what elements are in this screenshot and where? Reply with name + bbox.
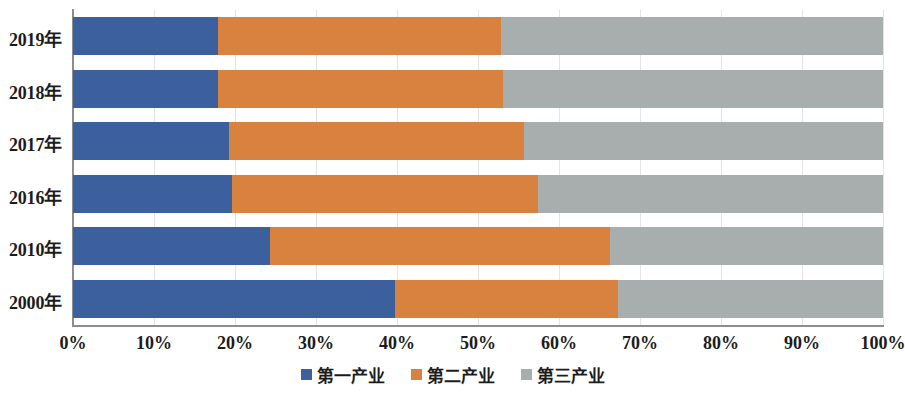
bar-row (73, 17, 883, 55)
x-tick-label: 80% (681, 333, 761, 354)
bar-segment (229, 122, 524, 160)
x-tick-label: 50% (438, 333, 518, 354)
category-label: 2017年 (0, 130, 62, 156)
bar-row (73, 280, 883, 318)
bar-segment (395, 280, 618, 318)
plot-area (73, 10, 883, 325)
gridline-40 (397, 10, 398, 325)
bar-segment (73, 227, 270, 265)
bar-segment (503, 70, 883, 108)
gridline-80 (721, 10, 722, 325)
bar-segment (501, 17, 883, 55)
x-tick-label: 60% (519, 333, 599, 354)
x-tick-label: 40% (357, 333, 437, 354)
bar-segment (538, 175, 883, 213)
x-tick-label: 20% (195, 333, 275, 354)
bar-segment (73, 17, 218, 55)
x-tick-label: 0% (33, 333, 113, 354)
x-tick-label: 70% (600, 333, 680, 354)
chart-legend: 第一产业第二产业第三产业 (0, 362, 905, 387)
bar-segment (610, 227, 883, 265)
gridline-30 (316, 10, 317, 325)
bar-segment (73, 122, 229, 160)
bar-segment (218, 17, 501, 55)
gridline-70 (640, 10, 641, 325)
x-tick-label: 30% (276, 333, 356, 354)
x-axis-line (72, 325, 884, 327)
legend-label: 第二产业 (427, 362, 495, 387)
bar-segment (270, 227, 610, 265)
gridline-60 (559, 10, 560, 325)
bar-segment (73, 280, 395, 318)
category-label: 2016年 (0, 183, 62, 209)
legend-label: 第一产业 (317, 362, 385, 387)
legend-item[interactable]: 第二产业 (411, 362, 495, 387)
legend-swatch-icon (301, 369, 312, 380)
bar-segment (232, 175, 538, 213)
bar-segment (524, 122, 883, 160)
category-label: 2010年 (0, 235, 62, 261)
legend-item[interactable]: 第三产业 (521, 362, 605, 387)
bar-row (73, 122, 883, 160)
x-tick-label: 100% (843, 333, 905, 354)
legend-swatch-icon (521, 369, 532, 380)
stacked-bar-chart: 2019年2018年2017年2016年2010年2000年 0%10%20%3… (0, 0, 905, 393)
gridline-90 (802, 10, 803, 325)
category-label: 2019年 (0, 25, 62, 51)
bar-segment (73, 70, 218, 108)
gridline-50 (478, 10, 479, 325)
legend-item[interactable]: 第一产业 (301, 362, 385, 387)
gridline-10 (154, 10, 155, 325)
x-tick-label: 90% (762, 333, 842, 354)
bar-row (73, 227, 883, 265)
bar-segment (73, 175, 232, 213)
legend-swatch-icon (411, 369, 422, 380)
category-label: 2018年 (0, 78, 62, 104)
bar-segment (618, 280, 883, 318)
gridline-20 (235, 10, 236, 325)
category-label: 2000年 (0, 288, 62, 314)
gridline-100 (883, 10, 884, 325)
bar-row (73, 175, 883, 213)
bar-segment (218, 70, 503, 108)
x-tick-label: 10% (114, 333, 194, 354)
bar-row (73, 70, 883, 108)
legend-label: 第三产业 (537, 362, 605, 387)
